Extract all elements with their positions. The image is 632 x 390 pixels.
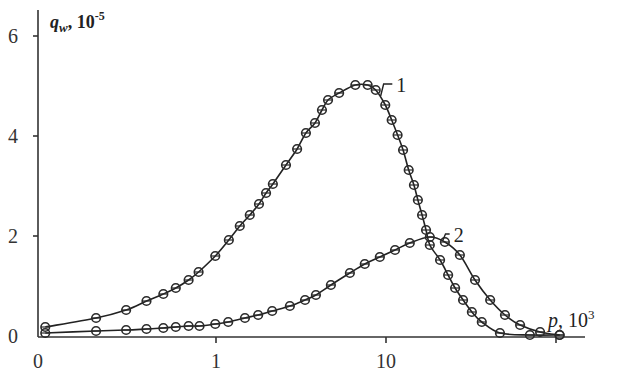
data-marker	[459, 296, 468, 305]
y-tick-label: 4	[8, 125, 18, 147]
data-marker	[496, 329, 505, 338]
data-marker	[159, 324, 168, 333]
data-marker	[224, 318, 233, 327]
data-marker	[477, 318, 486, 327]
data-marker	[346, 269, 355, 278]
data-marker	[363, 81, 372, 90]
data-marker	[282, 161, 291, 170]
data-marker	[211, 320, 220, 329]
data-marker	[387, 116, 396, 125]
curve-labels: 12	[381, 74, 464, 246]
data-marker	[171, 284, 180, 293]
curve-label-1: 1	[381, 74, 407, 96]
data-marker	[184, 322, 193, 331]
data-marker	[371, 86, 380, 95]
data-marker	[269, 180, 278, 189]
data-marker	[451, 284, 460, 293]
y-label-subscript: w	[59, 20, 68, 35]
series-line	[45, 237, 559, 335]
data-marker	[471, 276, 480, 285]
data-marker	[555, 331, 564, 340]
data-marker	[436, 256, 445, 265]
data-marker	[41, 329, 50, 338]
x-axis-label: p, 103	[546, 307, 595, 332]
data-marker	[360, 260, 369, 269]
x-tick-label: 10	[376, 350, 396, 372]
x-label-scale: , 10	[558, 309, 588, 331]
data-marker	[142, 297, 151, 306]
data-marker	[351, 81, 360, 90]
data-marker	[268, 307, 277, 316]
data-marker	[194, 268, 203, 277]
data-marker	[286, 302, 295, 311]
chart: 0246 0110 12 qw, 10-5 p, 103	[0, 0, 632, 390]
y-tick-label: 6	[8, 25, 18, 47]
data-marker	[122, 326, 131, 335]
y-axis-label: qw, 10-5	[50, 9, 105, 35]
data-marker	[312, 291, 321, 300]
data-marker	[159, 290, 168, 299]
data-marker	[324, 96, 333, 105]
data-marker	[399, 146, 408, 155]
data-marker	[311, 119, 320, 128]
data-marker	[184, 276, 193, 285]
data-marker	[255, 200, 264, 209]
data-marker	[444, 271, 453, 280]
data-marker	[468, 308, 477, 317]
y-ticks: 0246	[8, 25, 38, 347]
data-marker	[486, 296, 495, 305]
curve-label-text: 1	[396, 74, 406, 96]
series-layer	[41, 81, 564, 340]
data-marker	[404, 166, 413, 175]
curve-label-text: 2	[454, 224, 464, 246]
y-tick-label: 2	[8, 225, 18, 247]
data-marker	[335, 89, 344, 98]
x-label-symbol: p	[546, 309, 558, 332]
data-marker	[92, 314, 101, 323]
data-marker	[405, 239, 414, 248]
data-marker	[441, 238, 450, 247]
data-marker	[410, 181, 419, 190]
data-marker	[211, 252, 220, 261]
x-tick-label: 0	[33, 350, 43, 372]
data-marker	[171, 323, 180, 332]
y-label-symbol: q	[50, 12, 59, 32]
y-tick-label: 0	[8, 325, 18, 347]
data-marker	[225, 236, 234, 245]
x-label-exponent: 3	[588, 307, 595, 322]
data-marker	[501, 311, 510, 320]
x-ticks: 0110	[33, 337, 556, 372]
data-marker	[516, 321, 525, 330]
data-marker	[456, 251, 465, 260]
data-marker	[393, 131, 402, 140]
data-marker	[235, 222, 244, 231]
data-marker	[142, 325, 151, 334]
data-marker	[92, 327, 101, 336]
data-marker	[526, 331, 535, 340]
data-marker	[122, 306, 131, 315]
data-marker	[381, 101, 390, 110]
data-marker	[391, 246, 400, 255]
data-marker	[318, 106, 327, 115]
data-marker	[245, 211, 254, 220]
leader-line	[381, 84, 393, 96]
data-marker	[302, 129, 311, 138]
data-marker	[327, 281, 336, 290]
data-marker	[262, 189, 271, 198]
data-marker	[293, 145, 302, 154]
y-label-scale: 10	[72, 12, 95, 32]
y-label-exponent: -5	[95, 9, 105, 23]
data-marker	[254, 311, 263, 320]
data-marker	[376, 253, 385, 262]
data-marker	[195, 322, 204, 331]
data-marker	[241, 314, 250, 323]
x-tick-label: 1	[211, 350, 221, 372]
data-marker	[301, 296, 310, 305]
